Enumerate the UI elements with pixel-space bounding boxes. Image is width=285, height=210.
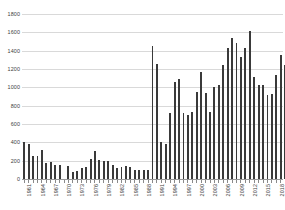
x-axis-tick [103, 180, 104, 183]
bar [222, 65, 224, 179]
x-axis-tick-label: 2015 [265, 184, 271, 196]
x-axis-tick [143, 180, 144, 183]
x-axis-tick-label: 1961 [26, 184, 32, 196]
x-axis-tick [99, 180, 100, 183]
x-axis-tick-label: 1979 [106, 184, 112, 196]
bar [125, 166, 127, 179]
x-axis-tick-label: 1991 [159, 184, 165, 196]
bar [227, 48, 229, 179]
bar [218, 85, 220, 179]
bar [187, 115, 189, 179]
x-axis-tick [192, 180, 193, 183]
x-axis-tick [152, 180, 153, 183]
x-axis-tick-label: 1988 [146, 184, 152, 196]
x-axis-tick-label: 1997 [186, 184, 192, 196]
x-axis-tick [165, 180, 166, 183]
bar [160, 142, 162, 179]
y-axis-tick-label: 1000 [0, 84, 20, 90]
bar [231, 38, 233, 179]
x-axis-tick-label: 1970 [66, 184, 72, 196]
x-axis-tick [130, 180, 131, 183]
bar [59, 165, 61, 179]
y-axis-tick-label: 800 [0, 103, 20, 109]
bar [258, 85, 260, 179]
bar [147, 170, 149, 179]
y-axis-labels: 020040060080010001200140016001800 [0, 0, 20, 210]
bar [85, 167, 87, 179]
bar [209, 112, 211, 179]
x-axis-tick [68, 180, 69, 183]
x-axis-tick [236, 180, 237, 183]
y-axis-tick-label: 0 [0, 176, 20, 182]
x-axis-tick [254, 180, 255, 183]
x-axis-tick-label: 1967 [53, 184, 59, 196]
x-axis-tick-label: 1976 [93, 184, 99, 196]
bar [37, 156, 39, 179]
y-axis-tick-label: 400 [0, 139, 20, 145]
y-axis-tick-label: 1800 [0, 11, 20, 17]
x-axis-tick [218, 180, 219, 183]
bar [129, 167, 131, 179]
bar-series [22, 14, 283, 179]
bar [112, 165, 114, 179]
x-axis-tick [90, 180, 91, 183]
x-axis-tick [267, 180, 268, 183]
bar [213, 87, 215, 179]
x-axis-tick [214, 180, 215, 183]
x-axis-tick [24, 180, 25, 183]
x-axis-tick [223, 180, 224, 183]
x-axis-tick-label: 2009 [239, 184, 245, 196]
bar [174, 82, 176, 179]
x-axis-tick [271, 180, 272, 183]
y-axis-tick-label: 600 [0, 121, 20, 127]
x-axis-tick [117, 180, 118, 183]
bar [72, 172, 74, 179]
bar [81, 168, 83, 179]
x-axis-tick [205, 180, 206, 183]
x-axis-tick-label: 2003 [212, 184, 218, 196]
y-axis-tick-label: 1400 [0, 48, 20, 54]
x-axis-tick [174, 180, 175, 183]
bar [271, 94, 273, 179]
bar [41, 150, 43, 179]
x-axis-tick [210, 180, 211, 183]
bar [253, 77, 255, 179]
x-axis-tick-label: 2012 [252, 184, 258, 196]
x-axis-tick [276, 180, 277, 183]
x-axis-tick-label: 1973 [79, 184, 85, 196]
y-axis-tick-label: 200 [0, 158, 20, 164]
x-axis-tick-label: 1982 [119, 184, 125, 196]
bar [178, 79, 180, 179]
bar [262, 85, 264, 179]
x-axis-labels: 1961196419671970197319761979198219851988… [22, 184, 283, 210]
bar [103, 161, 105, 179]
bar [284, 65, 285, 179]
bar [165, 144, 167, 179]
x-axis-tick [86, 180, 87, 183]
bar [32, 156, 34, 179]
x-axis-tick [59, 180, 60, 183]
x-axis-tick [41, 180, 42, 183]
bar [236, 43, 238, 179]
bar [196, 92, 198, 179]
x-axis-tick [108, 180, 109, 183]
x-axis-tick [232, 180, 233, 183]
x-axis-tick [196, 180, 197, 183]
x-axis-tick-label: 2006 [225, 184, 231, 196]
bar [67, 166, 69, 179]
bar [90, 159, 92, 179]
x-axis-tick [77, 180, 78, 183]
bar [156, 64, 158, 179]
bar [275, 75, 277, 179]
bar [76, 171, 78, 179]
x-axis-tick-label: 1994 [172, 184, 178, 196]
bar [23, 142, 25, 179]
bar [107, 161, 109, 179]
x-axis-tick-label: 2000 [199, 184, 205, 196]
x-axis-tick [258, 180, 259, 183]
x-axis-tick [148, 180, 149, 183]
x-axis-tick [64, 180, 65, 183]
bar [54, 165, 56, 179]
bar [121, 167, 123, 179]
plot-area [22, 14, 283, 179]
